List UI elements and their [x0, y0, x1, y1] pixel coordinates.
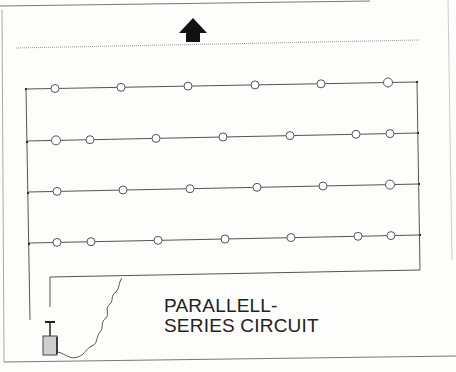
up-arrow-icon: [179, 18, 207, 42]
plunger-detonator-icon: [43, 322, 57, 355]
lead-wire: [58, 278, 122, 358]
bottom-border: [4, 356, 456, 362]
right-bus-wire: [417, 82, 420, 270]
bulb-icons: [53, 232, 395, 247]
circuit-diagram-page: PARALLELL- SERIES CIRCUIT: [0, 0, 456, 372]
title-line-1: PARALLELL-: [164, 296, 319, 316]
branch-row-3: [28, 180, 419, 195]
bulb-icons: [52, 130, 395, 145]
branch-row-2: [27, 130, 418, 145]
diagram-title: PARALLELL- SERIES CIRCUIT: [164, 296, 319, 336]
junction-dots: [25, 81, 421, 245]
left-border: [2, 10, 4, 362]
title-line-2: SERIES CIRCUIT: [164, 316, 319, 336]
left-bus-wire: [26, 89, 30, 320]
top-border: [0, 1, 370, 6]
branch-row-4: [29, 232, 420, 247]
right-border: [448, 0, 452, 260]
branch-row-1: [26, 78, 417, 93]
reference-line: [16, 40, 420, 48]
